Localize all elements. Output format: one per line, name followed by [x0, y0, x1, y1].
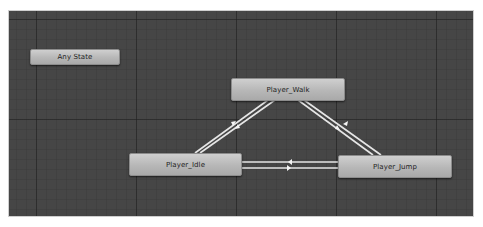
animator-graph-canvas[interactable]: [9, 11, 473, 216]
state-any-state[interactable]: Any State: [30, 49, 120, 65]
state-label: Player_Walk: [266, 86, 309, 94]
state-label: Any State: [57, 53, 92, 61]
state-player-idle[interactable]: Player_Idle: [129, 153, 242, 176]
state-player-walk[interactable]: Player_Walk: [231, 78, 345, 101]
state-label: Player_Jump: [373, 163, 417, 171]
state-player-jump[interactable]: Player_Jump: [338, 155, 452, 178]
state-label: Player_Idle: [166, 161, 205, 169]
